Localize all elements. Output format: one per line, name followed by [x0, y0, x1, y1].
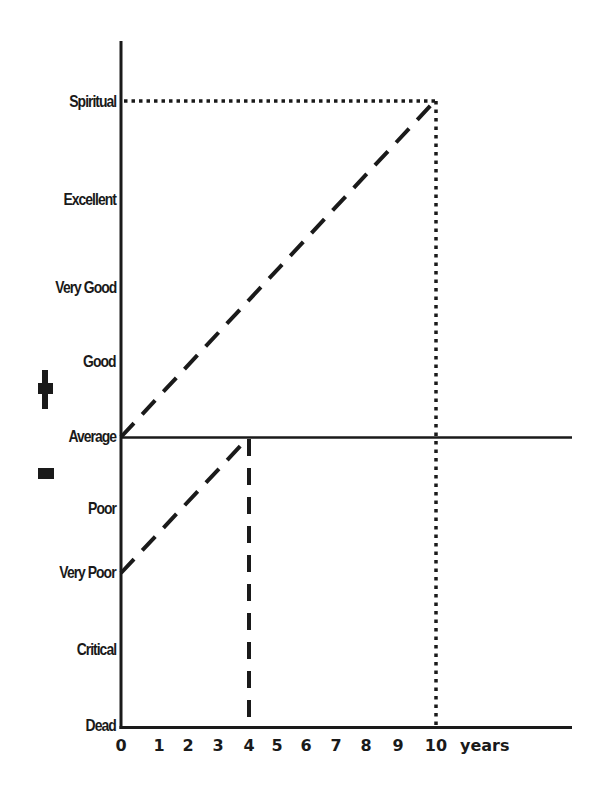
x-axis-unit-label: years [460, 737, 510, 755]
x-tick-6: 6 [300, 737, 311, 755]
series-average-to-spiritual [121, 103, 433, 437]
x-tick-7: 7 [330, 737, 341, 755]
x-tick-3: 3 [212, 737, 223, 755]
y-label-dead: Dead [86, 716, 116, 736]
x-tick-0: 0 [115, 737, 126, 755]
x-tick-9: 9 [392, 737, 403, 755]
y-label-good: Good [84, 352, 116, 372]
x-tick-1: 1 [153, 737, 164, 755]
x-tick-8: 8 [360, 737, 371, 755]
series-verypoor-to-average [121, 439, 247, 573]
x-tick-10: 10 [425, 737, 447, 755]
plus-sign-icon [38, 370, 53, 409]
x-tick-2: 2 [182, 737, 193, 755]
y-label-excellent: Excellent [64, 190, 116, 210]
y-label-very-good: Very Good [55, 278, 116, 298]
x-tick-4: 4 [243, 737, 254, 755]
y-label-very-poor: Very Poor [60, 563, 116, 583]
y-label-spiritual: Spiritual [69, 92, 116, 112]
y-label-critical: Critical [77, 640, 116, 660]
minus-sign-icon [38, 468, 54, 479]
y-label-poor: Poor [88, 499, 116, 519]
x-tick-5: 5 [271, 737, 282, 755]
y-label-average: Average [68, 427, 116, 447]
chart-canvas [0, 0, 608, 795]
health-progress-chart: Spiritual Excellent Very Good Good Avera… [0, 0, 608, 795]
